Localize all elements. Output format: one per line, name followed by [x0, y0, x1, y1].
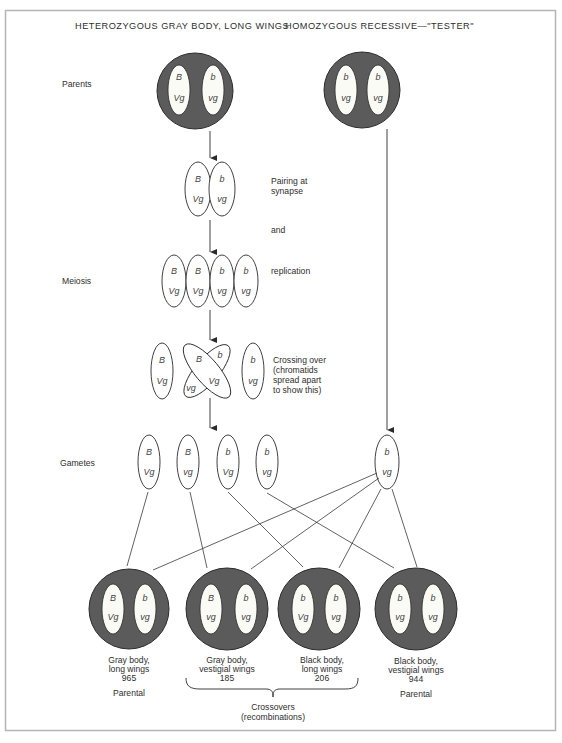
allele: vg: [140, 612, 150, 622]
parent-heterozygous-cell: B Vg b vg: [157, 53, 233, 129]
allele: vg: [217, 286, 227, 296]
allele: B: [185, 447, 191, 457]
allele: vg: [373, 93, 383, 103]
allele: b: [225, 447, 230, 457]
crossovers-label: Crossovers: [251, 702, 294, 712]
allele: b: [142, 593, 147, 603]
allele: B: [195, 174, 201, 184]
parent-tester-cell: b vg b vg: [324, 52, 400, 128]
note-crossing: spread apart: [273, 375, 322, 385]
allele: vg: [241, 612, 251, 622]
offspring-caption-1: Gray body, long wings 965 Parental: [108, 655, 149, 698]
allele: Vg: [107, 612, 118, 622]
allele: B: [195, 266, 201, 276]
allele: vg: [395, 612, 405, 622]
gamete: [138, 435, 160, 489]
allele: Vg: [168, 286, 179, 296]
allele: vg: [248, 376, 258, 386]
allele: vg: [206, 612, 216, 622]
note-pairing: Pairing at: [271, 176, 308, 186]
allele: B: [159, 355, 165, 365]
allele: vg: [183, 467, 193, 477]
allele: b: [217, 350, 222, 360]
offspring-gray-long: B Vg b vg: [89, 569, 169, 649]
offspring-count: 944: [409, 674, 424, 684]
allele: Vg: [192, 194, 203, 204]
allele: b: [384, 447, 389, 457]
allele: vg: [341, 93, 351, 103]
crossing-over: B Vg B Vg b vg b vg: [151, 337, 264, 405]
chromosome: [102, 584, 124, 634]
allele: b: [219, 266, 224, 276]
offspring-type: Parental: [113, 688, 145, 698]
offspring-count: 206: [315, 673, 330, 683]
chromosome: [185, 162, 211, 216]
allele: Vg: [143, 467, 154, 477]
allele: b: [430, 593, 435, 603]
allele: b: [243, 266, 248, 276]
offspring-type: Parental: [400, 689, 432, 699]
allele: b: [300, 593, 305, 603]
offspring-black-long: b Vg b vg: [278, 568, 360, 650]
note-crossing: to show this): [273, 385, 321, 395]
synapse-pair: B Vg b vg: [185, 162, 235, 216]
allele: b: [219, 174, 224, 184]
note-and: and: [271, 225, 286, 235]
chromosome: [292, 584, 314, 634]
label-gametes: Gametes: [60, 458, 95, 468]
note-replication: replication: [271, 266, 310, 276]
allele: Vg: [156, 376, 167, 386]
allele: B: [171, 266, 177, 276]
chromatid: [234, 255, 258, 307]
gamete-tester: b vg: [375, 435, 399, 489]
allele: b: [243, 593, 248, 603]
replicated-chromatids: B Vg B Vg b vg b vg: [162, 255, 258, 307]
offspring-caption-2: Gray body, vestigial wings 185: [199, 655, 254, 683]
crossovers-label: (recombinations): [241, 712, 305, 722]
allele: b: [343, 72, 348, 82]
chromosome: [235, 584, 257, 634]
allele: b: [210, 72, 215, 82]
note-pairing: synapse: [271, 186, 303, 196]
allele: b: [397, 593, 402, 603]
chromosome: [325, 584, 347, 634]
allele: B: [110, 593, 116, 603]
chromatid: [162, 255, 186, 307]
chromatid: [186, 255, 210, 307]
chromosome: [209, 162, 235, 216]
chromatid: [151, 343, 173, 399]
chromosome: [200, 584, 222, 634]
allele: Vg: [192, 286, 203, 296]
allele: vg: [208, 93, 218, 103]
chromosome: [389, 584, 411, 634]
allele: b: [375, 72, 380, 82]
chromatid: [242, 343, 264, 399]
offspring-count: 965: [122, 673, 137, 683]
allele: vg: [186, 383, 196, 393]
label-meiosis: Meiosis: [62, 276, 91, 286]
fertilization-lines: [127, 473, 417, 570]
allele: B: [196, 354, 202, 364]
allele: B: [176, 72, 182, 82]
chromatid: [210, 255, 234, 307]
offspring-count: 185: [220, 673, 235, 683]
offspring-caption-3: Black body, long wings 206: [300, 655, 344, 683]
allele: vg: [217, 194, 227, 204]
allele: Vg: [222, 467, 233, 477]
allele: b: [250, 355, 255, 365]
allele: Vg: [297, 612, 308, 622]
gamete: [177, 435, 199, 489]
allele: Vg: [173, 93, 184, 103]
gamete: [217, 435, 239, 489]
offspring-gray-vestigial: B vg b vg: [186, 568, 268, 650]
allele: vg: [331, 612, 341, 622]
header-tester: HOMOZYGOUS RECESSIVE—"TESTER": [285, 21, 474, 31]
allele: b: [333, 593, 338, 603]
label-parents: Parents: [62, 79, 92, 89]
gamete: [256, 435, 278, 489]
allele: B: [208, 593, 214, 603]
testcross-diagram: HETEROZYGOUS GRAY BODY, LONG WINGS HOMOZ…: [0, 0, 562, 743]
allele: vg: [428, 612, 438, 622]
chromosome: [134, 584, 156, 634]
crossovers-brace: [186, 678, 358, 697]
